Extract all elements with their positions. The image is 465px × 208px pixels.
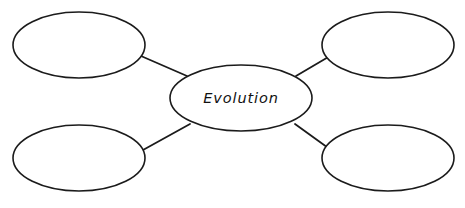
- ellipse-top-left[interactable]: [13, 12, 145, 78]
- outer-node-bottom-left[interactable]: [13, 125, 145, 191]
- outer-node-bottom-right[interactable]: [322, 125, 454, 191]
- center-node[interactable]: Evolution: [170, 65, 312, 131]
- connector-center-to-top-left: [141, 56, 187, 76]
- connector-center-to-bottom-left: [143, 124, 190, 150]
- outer-node-top-left[interactable]: [13, 12, 145, 78]
- outer-node-top-right[interactable]: [322, 12, 454, 78]
- connector-center-to-top-right: [296, 56, 330, 76]
- ellipse-bottom-right[interactable]: [322, 125, 454, 191]
- concept-map-diagram: Evolution: [0, 0, 465, 208]
- ellipse-bottom-left[interactable]: [13, 125, 145, 191]
- ellipse-top-right[interactable]: [322, 12, 454, 78]
- concept-map-canvas: Evolution: [0, 0, 465, 208]
- label-center: Evolution: [203, 90, 279, 106]
